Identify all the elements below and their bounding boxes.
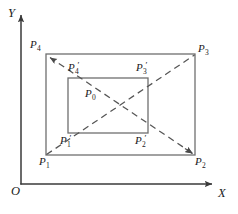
inner-rectangle [68, 78, 148, 133]
p3-base: P [198, 42, 205, 54]
p1p-base: P [60, 134, 67, 146]
x-axis-label: X [218, 187, 226, 200]
vertex-label-p1-prime: P1′ [60, 135, 72, 146]
p0-sub: 0 [92, 93, 96, 102]
p4p-base: P [68, 61, 75, 73]
p4-base: P [30, 38, 37, 50]
p2-base: P [195, 155, 202, 167]
geometry-figure: Y X O P4 P3 P1 P2 P4′ P3′ P1′ P2′ P0 [0, 0, 238, 214]
p3p-base: P [136, 61, 143, 73]
p4-sub: 4 [37, 44, 41, 53]
vertex-label-p1: P1 [39, 156, 49, 167]
vertex-label-p4-prime: P4′ [68, 62, 80, 73]
vertex-label-p2-prime: P2′ [135, 135, 147, 146]
vertex-label-p4: P4 [30, 39, 40, 50]
p1-base: P [39, 155, 46, 167]
p2p-base: P [135, 134, 142, 146]
origin-label: O [11, 185, 20, 198]
p3-sub: 3 [205, 48, 209, 57]
vertex-label-p3: P3 [198, 43, 208, 54]
p2-sub: 2 [202, 161, 206, 170]
y-axis-label: Y [8, 7, 15, 20]
p0-base: P [85, 87, 92, 99]
vertex-label-p2: P2 [195, 156, 205, 167]
diagonal-arrow-to-p2 [185, 149, 193, 154]
vertex-label-p3-prime: P3′ [136, 62, 148, 73]
p1-sub: 1 [46, 161, 50, 170]
figure-canvas [0, 0, 238, 214]
center-label-p0: P0 [85, 88, 95, 99]
